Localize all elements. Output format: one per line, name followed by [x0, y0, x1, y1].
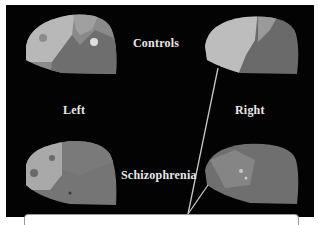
scan-controls-left: [20, 10, 120, 80]
label-left: Left: [63, 103, 85, 118]
scan-schizophrenia-left: [20, 135, 120, 210]
scan-schizophrenia-right: [200, 140, 300, 210]
label-schizophrenia: Schizophrenia: [121, 168, 197, 183]
scan-controls-right: [200, 10, 300, 80]
brain-scans: [0, 0, 318, 225]
label-controls: Controls: [133, 36, 179, 51]
label-right: Right: [235, 103, 265, 118]
callout-box: [24, 214, 299, 225]
